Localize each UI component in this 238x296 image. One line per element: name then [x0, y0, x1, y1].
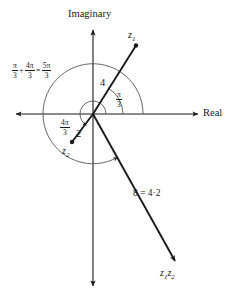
fraction-4pi-over-3: 4π 3 [60, 119, 70, 136]
plus-sign: + [19, 67, 23, 75]
fraction-term2: 4π 3 [25, 62, 35, 79]
imaginary-axis-label: Imaginary [68, 9, 111, 20]
fraction-denominator: 3 [116, 100, 122, 108]
point-label-z1-sub: 1 [132, 35, 136, 43]
modulus-label-product: 8 = 4·2 [133, 189, 161, 199]
fraction-denominator: 3 [25, 71, 35, 79]
modulus-label-z2: 2 [76, 129, 81, 140]
vector-z2 [70, 114, 93, 144]
point-label-z2-sub: 2 [66, 151, 70, 159]
fraction-pi-over-3: π 3 [116, 91, 122, 108]
diagram-canvas [0, 0, 238, 296]
fraction-denominator: 3 [42, 71, 52, 79]
fraction-term1: π 3 [12, 62, 18, 79]
point-label-z1: z1 [128, 30, 135, 43]
fraction-numerator: 4π [60, 119, 70, 128]
fraction-numerator: 4π [25, 62, 35, 71]
angle-sum-equation: π 3 + 4π 3 = 5π 3 [12, 62, 51, 79]
point-label-z2: z2 [62, 146, 69, 159]
fraction-denominator: 3 [60, 128, 70, 136]
argand-diagram-figure: Imaginary Real z1 z2 z1z2 4 2 8 = 4·2 π … [0, 0, 238, 296]
fraction-result: 5π 3 [42, 62, 52, 79]
product-label-sub2: 2 [171, 273, 175, 281]
fraction-numerator: π [12, 62, 18, 71]
angle-label-pi-over-3: π 3 [116, 91, 122, 108]
fraction-denominator: 3 [12, 71, 18, 79]
equals-sign: = [36, 67, 40, 75]
modulus-label-z1: 4 [100, 78, 105, 89]
fraction-numerator: 5π [42, 62, 52, 71]
real-axis-label: Real [203, 108, 222, 119]
fraction-numerator: π [116, 91, 122, 100]
angle-label-4pi-over-3: 4π 3 [60, 119, 70, 136]
point-label-product: z1z2 [160, 268, 175, 281]
